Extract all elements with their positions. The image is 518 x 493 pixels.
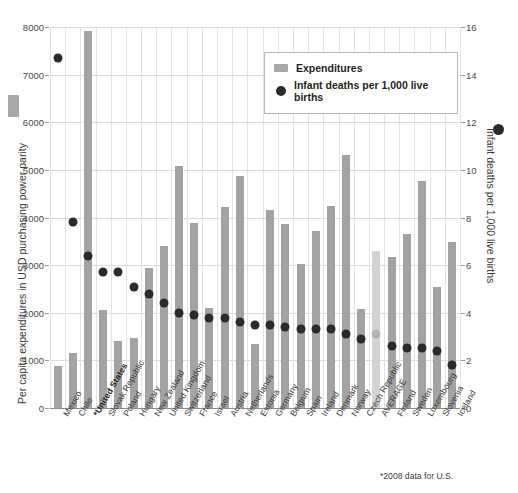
dot-czechrepublic <box>357 334 366 343</box>
bar-mexico <box>54 366 62 408</box>
dot-netherlands <box>235 318 244 327</box>
bar-unitedkingdom <box>160 246 168 408</box>
y-axis-right-tickmark <box>461 27 465 28</box>
y-axis-left-tick-label: 7000 <box>0 69 44 80</box>
y-axis-right-tick-label: 4 <box>466 307 496 318</box>
dot-finland <box>387 342 396 351</box>
gridline-vertical <box>187 27 188 408</box>
footnote: *2008 data for U.S. <box>380 471 453 481</box>
dot-denmark <box>326 325 335 334</box>
bar-luxembourg <box>418 181 426 408</box>
bar-austria <box>221 207 229 408</box>
dot-iceland <box>448 361 457 370</box>
dot-ireland <box>311 325 320 334</box>
dot-estonia <box>251 320 260 329</box>
y-axis-right-tick-label: 10 <box>466 164 496 175</box>
y-axis-left-tickmark <box>45 75 49 76</box>
gridline-vertical <box>171 27 172 408</box>
y-axis-left-tick-label: 5000 <box>0 164 44 175</box>
y-axis-left-tickmark <box>45 408 49 409</box>
bar-unitedstates <box>84 31 92 408</box>
dot-france <box>190 311 199 320</box>
y-axis-left-tick-label: 3000 <box>0 260 44 271</box>
bar-netherlands <box>236 176 244 408</box>
y-axis-right-tick-label: 2 <box>466 355 496 366</box>
y-axis-right-tickmark <box>461 313 465 314</box>
gridline-vertical <box>126 27 127 408</box>
dot-germany <box>266 320 275 329</box>
bar-swatch-icon <box>274 64 288 72</box>
y-axis-left-tick-label: 0 <box>0 403 44 414</box>
y-axis-left-tickmark <box>45 313 49 314</box>
gridline-vertical <box>202 27 203 408</box>
clipped-header-strip <box>0 0 518 6</box>
dot-hungary <box>129 282 138 291</box>
bar-denmark <box>327 206 335 408</box>
y-axis-left-tickmark <box>45 265 49 266</box>
y-axis-left-tick-label: 4000 <box>0 212 44 223</box>
dot-spain <box>296 325 305 334</box>
dot-slovenia <box>433 346 442 355</box>
y-axis-right-tickmark <box>461 218 465 219</box>
bar-norway <box>342 155 350 408</box>
gridline-vertical <box>247 27 248 408</box>
left-axis-bar-swatch-icon <box>8 95 19 117</box>
dot-average <box>372 330 381 339</box>
y-axis-right-tickmark <box>461 122 465 123</box>
y-axis-right-tickmark <box>461 170 465 171</box>
bar-ireland <box>312 231 320 408</box>
legend-label-expenditures: Expenditures <box>296 62 363 74</box>
y-axis-left-tickmark <box>45 27 49 28</box>
legend-item-expenditures: Expenditures <box>274 62 448 74</box>
dot-luxembourg <box>418 344 427 353</box>
dot-switzerland <box>175 308 184 317</box>
y-axis-left-tick-label: 1000 <box>0 355 44 366</box>
circle-dot-icon <box>276 86 286 96</box>
y-axis-left-tick-label: 6000 <box>0 117 44 128</box>
legend-item-infant-deaths: Infant deaths per 1,000 live births <box>274 79 448 103</box>
dot-poland <box>114 268 123 277</box>
y-axis-left-tick-label: 2000 <box>0 307 44 318</box>
dot-norway <box>342 330 351 339</box>
gridline-vertical <box>232 27 233 408</box>
y-axis-right-tick-label: 16 <box>466 22 496 33</box>
bar-belgium <box>281 224 289 408</box>
gridline-vertical <box>80 27 81 408</box>
dot-mexico <box>53 53 62 62</box>
dot-sweden <box>402 344 411 353</box>
gridline-vertical <box>96 27 97 408</box>
dot-israel <box>205 313 214 322</box>
y-axis-right-tick-label: 8 <box>466 212 496 223</box>
dot-unitedkingdom <box>159 299 168 308</box>
gridline-vertical <box>50 27 51 408</box>
gridline-vertical <box>111 27 112 408</box>
gridline-vertical <box>156 27 157 408</box>
gridline-vertical <box>65 27 66 408</box>
gridline-vertical <box>460 27 461 408</box>
dot-slovakrepublic <box>99 268 108 277</box>
gridline-vertical <box>141 27 142 408</box>
dot-unitedstates <box>83 251 92 260</box>
legend-label-infant-deaths: Infant deaths per 1,000 live births <box>294 79 448 103</box>
y-axis-right-tickmark <box>461 265 465 266</box>
dot-belgium <box>281 323 290 332</box>
y-axis-right-tick-label: 6 <box>466 260 496 271</box>
y-axis-right-tick-label: 12 <box>466 117 496 128</box>
dot-chile <box>68 218 77 227</box>
y-axis-right-tickmark <box>461 360 465 361</box>
y-axis-right-tick-label: 14 <box>466 69 496 80</box>
y-axis-left-tickmark <box>45 170 49 171</box>
dot-austria <box>220 313 229 322</box>
chart-legend: Expenditures Infant deaths per 1,000 liv… <box>264 52 458 114</box>
y-axis-left-tick-label: 8000 <box>0 22 44 33</box>
dot-newzealand <box>144 289 153 298</box>
y-axis-right-tickmark <box>461 75 465 76</box>
y-axis-left-tickmark <box>45 360 49 361</box>
y-axis-left-tickmark <box>45 122 49 123</box>
gridline-vertical <box>217 27 218 408</box>
y-axis-left-tickmark <box>45 218 49 219</box>
